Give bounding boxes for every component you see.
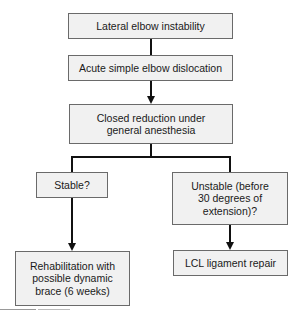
branch-left-drop <box>71 156 73 172</box>
node-label: LCL ligament repair <box>185 257 276 270</box>
node-rehabilitation: Rehabilitation with possible dynamic bra… <box>15 251 130 306</box>
branch-right-drop <box>229 156 231 172</box>
node-lateral-elbow-instability: Lateral elbow instability <box>68 13 233 39</box>
node-lcl-ligament-repair: LCL ligament repair <box>173 250 288 276</box>
node-unstable: Unstable (before 30 degrees of extension… <box>172 172 288 225</box>
connector-n1-n2 <box>150 38 152 55</box>
node-label: Closed reduction under general anesthesi… <box>80 112 222 137</box>
page-edge-rule <box>0 309 36 310</box>
arrowhead-rehab <box>68 243 76 251</box>
connector-unstable-lcl <box>229 225 231 243</box>
node-label: Unstable (before 30 degrees of extension… <box>189 180 271 218</box>
node-acute-simple-elbow-dislocation: Acute simple elbow dislocation <box>68 55 233 81</box>
branch-horizontal <box>71 156 231 158</box>
connector-n2-n3 <box>150 80 152 97</box>
node-label: Stable? <box>54 179 90 192</box>
page-edge-rule <box>38 309 70 310</box>
node-label: Acute simple elbow dislocation <box>79 62 222 75</box>
connector-stable-rehab <box>71 197 73 243</box>
arrowhead-lcl <box>226 242 234 250</box>
node-stable: Stable? <box>36 172 108 198</box>
node-closed-reduction: Closed reduction under general anesthesi… <box>69 104 233 144</box>
node-label: Lateral elbow instability <box>96 20 205 33</box>
node-label: Rehabilitation with possible dynamic bra… <box>28 260 117 298</box>
arrowhead-n3 <box>147 96 155 104</box>
